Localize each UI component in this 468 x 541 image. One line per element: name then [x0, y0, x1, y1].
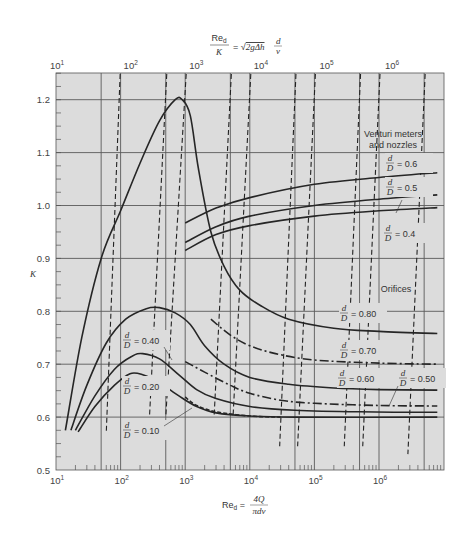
- svg-text:= 0.10: = 0.10: [134, 426, 159, 436]
- svg-text:= 0.70: = 0.70: [351, 346, 376, 356]
- svg-text:D: D: [386, 187, 394, 197]
- svg-text:d: d: [401, 368, 406, 378]
- label-venturi-0.5: dD= 0.5: [385, 177, 433, 197]
- svg-text:= 0.4: = 0.4: [395, 229, 415, 239]
- svg-text:D: D: [386, 163, 394, 173]
- svg-text:D: D: [340, 313, 348, 323]
- x-tick-label: 106: [373, 474, 388, 486]
- label-orifice-0.10: dD= 0.10: [122, 420, 170, 440]
- svg-text:d: d: [340, 368, 345, 378]
- svg-text:d: d: [342, 303, 347, 313]
- x-axis-label: Red =: [222, 500, 245, 511]
- svg-text:d: d: [386, 223, 391, 233]
- x-tick-label: 103: [179, 474, 194, 486]
- venturi-title: Venturi meters: [364, 129, 423, 139]
- svg-text:πdν: πdν: [252, 506, 265, 516]
- top-tick-label: 104: [254, 59, 269, 71]
- svg-text:d: d: [125, 376, 130, 386]
- x-tick-label: 104: [244, 474, 259, 486]
- flow-coefficient-chart: 0.50.60.70.80.91.01.11.21011021031041051…: [0, 0, 468, 541]
- x-tick-label: 105: [308, 474, 323, 486]
- svg-text:d: d: [125, 420, 130, 430]
- y-tick-label: 1.2: [37, 94, 50, 105]
- label-venturi-0.4: dD= 0.4: [383, 223, 431, 243]
- y-tick-label: 0.5: [37, 465, 50, 476]
- top-tick-label: 103: [189, 59, 204, 71]
- top-tick-label: 102: [124, 59, 139, 71]
- top-axis-denominator: K: [215, 47, 223, 57]
- top-axis-numerator: Red: [211, 33, 227, 44]
- svg-text:= 0.50: = 0.50: [410, 374, 435, 384]
- top-axis-title: Red K = √2gΔh d ν: [210, 33, 282, 57]
- svg-text:D: D: [338, 378, 346, 388]
- label-venturi-0.6: dD= 0.6: [385, 153, 433, 173]
- svg-text:= 0.5: = 0.5: [397, 183, 417, 193]
- svg-text:= 0.60: = 0.60: [349, 374, 374, 384]
- top-tick-label: 105: [319, 59, 334, 71]
- orifices-title: Orifices: [381, 284, 412, 294]
- svg-text:D: D: [340, 350, 348, 360]
- svg-text:d: d: [342, 340, 347, 350]
- y-tick-label: 1.1: [37, 147, 50, 158]
- y-tick-label: 0.7: [37, 359, 50, 370]
- svg-text:D: D: [123, 340, 131, 350]
- top-tick-label: 106: [385, 59, 400, 71]
- svg-text:d: d: [388, 153, 393, 163]
- top-axis-rhs: = √2gΔh: [233, 42, 265, 52]
- x-tick-label: 101: [50, 474, 65, 486]
- top-tick-label: 101: [50, 59, 65, 71]
- svg-text:D: D: [123, 386, 131, 396]
- venturi-title-2: and nozzles: [369, 140, 418, 150]
- svg-text:D: D: [123, 430, 131, 440]
- label-orifice-0.20: dD= 0.20: [122, 376, 170, 396]
- y-tick-label: 0.9: [37, 253, 50, 264]
- x-axis-title: Red = 4Q πdν: [222, 494, 268, 516]
- svg-text:ν: ν: [276, 46, 280, 56]
- svg-text:= 0.80: = 0.80: [351, 309, 376, 319]
- svg-text:= 0.6: = 0.6: [397, 159, 417, 169]
- x-tick-label: 102: [115, 474, 130, 486]
- y-tick-label: 1.0: [37, 200, 50, 211]
- y-tick-label: 0.8: [37, 306, 50, 317]
- y-axis-label: K: [29, 269, 37, 279]
- y-tick-label: 0.6: [37, 412, 50, 423]
- label-orifice-0.40: dD= 0.40: [122, 330, 170, 350]
- label-orifice-0.70: dD= 0.70: [339, 340, 387, 360]
- label-orifice-0.60: dD= 0.60: [337, 368, 385, 388]
- svg-text:d: d: [276, 36, 281, 46]
- svg-text:D: D: [384, 233, 392, 243]
- svg-text:= 0.20: = 0.20: [134, 382, 159, 392]
- label-orifice-0.80: dD= 0.80: [339, 303, 387, 323]
- svg-text:d: d: [125, 330, 130, 340]
- svg-text:d: d: [388, 177, 393, 187]
- label-orifice-0.50: dD= 0.50: [398, 368, 446, 388]
- svg-text:4Q: 4Q: [254, 494, 266, 504]
- svg-text:D: D: [399, 378, 407, 388]
- svg-text:= 0.40: = 0.40: [134, 336, 159, 346]
